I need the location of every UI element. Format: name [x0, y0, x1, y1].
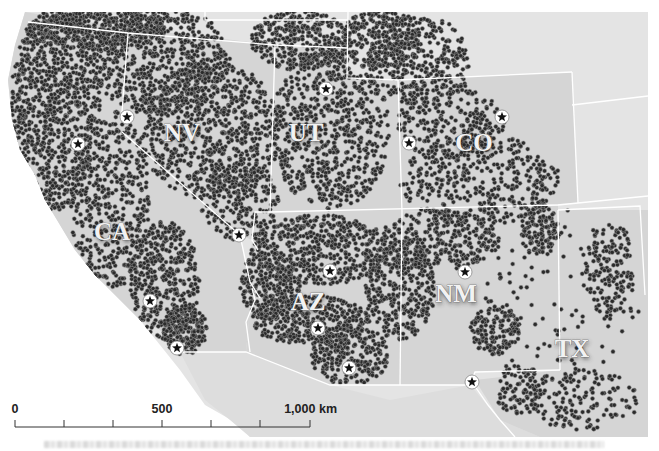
svg-text:AZ: AZ	[291, 288, 326, 315]
svg-text:NV: NV	[164, 119, 200, 146]
state-label-nv: NVNV	[164, 119, 201, 148]
svg-text:NM: NM	[435, 280, 477, 307]
star-nv-lasvegas-icon	[232, 228, 246, 242]
star-nv-reno-icon	[120, 110, 134, 124]
svg-text:CO: CO	[455, 129, 493, 156]
svg-text:CA: CA	[94, 218, 130, 245]
star-az-tucson-icon	[342, 361, 356, 375]
state-label-az: AZAZ	[291, 288, 327, 317]
state-label-ca: CACA	[94, 218, 131, 247]
star-ca-la-icon	[143, 294, 157, 308]
star-ca-sd-icon	[170, 341, 184, 355]
state-label-nm: NMNM	[435, 280, 478, 309]
scale-bar-label: 500	[152, 402, 173, 416]
svg-text:UT: UT	[289, 119, 324, 146]
figure-caption-illegible	[44, 441, 604, 448]
star-co-denver-icon	[495, 110, 509, 124]
scale-bar-label: 0	[12, 402, 19, 416]
dot-density-map: NVNVUTUTCOCOCACAAZAZNMNMTXTX 05001,000 k…	[0, 0, 659, 451]
star-ut-slc-icon	[319, 82, 333, 96]
scale-bar-label: 1,000 km	[284, 402, 337, 416]
star-az-phoenix-icon	[311, 321, 325, 335]
star-nm-abq-icon	[458, 265, 472, 279]
star-az-flagstaff-icon	[323, 264, 337, 278]
star-ca-north-icon	[71, 137, 85, 151]
state-label-tx: TXTX	[555, 335, 591, 364]
state-label-ut: UTUT	[289, 119, 325, 148]
star-tx-elpaso-icon	[465, 375, 479, 389]
svg-text:TX: TX	[555, 335, 590, 362]
state-label-co: COCO	[455, 129, 494, 158]
star-co-gj-icon	[402, 136, 416, 150]
